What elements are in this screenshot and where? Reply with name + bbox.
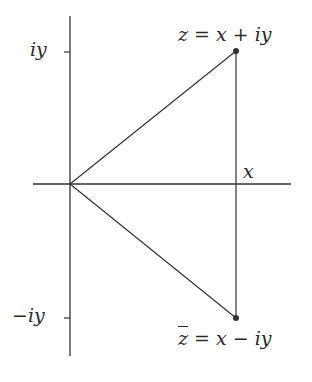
label-z: z = x + iy — [178, 25, 272, 44]
segment-origin-to-zbar — [70, 184, 236, 318]
point-zbar — [233, 315, 239, 321]
label-zbar-expression: = x − iy — [188, 327, 272, 349]
label-zbar: z = x − iy — [178, 329, 272, 348]
axis-label-x: x — [243, 162, 254, 181]
label-z-expression: = x + iy — [188, 23, 272, 45]
segment-origin-to-z — [70, 51, 236, 184]
label-z-symbol: z — [178, 23, 188, 45]
point-z — [233, 48, 239, 54]
tick-label-iy: iy — [30, 40, 47, 59]
tick-label-minus-iy: −iy — [12, 306, 45, 325]
label-zbar-symbol: z — [178, 327, 188, 349]
